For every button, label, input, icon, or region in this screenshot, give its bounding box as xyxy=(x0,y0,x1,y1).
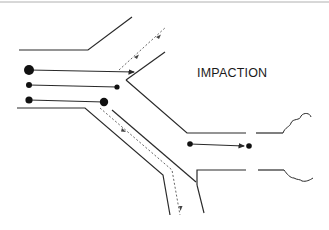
lower-branch-inner-wall xyxy=(197,185,204,213)
central-channel-lower-wall xyxy=(197,170,246,185)
upper-branch-outer-wall xyxy=(19,17,132,50)
medium-particle-path xyxy=(29,85,117,87)
airflow-streamlines xyxy=(100,27,180,215)
lower-particle-start xyxy=(25,96,32,103)
lower-streamline-arrow-2 xyxy=(179,206,183,211)
central-particle-start xyxy=(187,141,193,147)
lower-particle-deposit xyxy=(100,98,108,106)
lower-streamline xyxy=(100,108,180,215)
diagram-title: IMPACTION xyxy=(197,66,267,80)
medium-particle-deposit xyxy=(114,84,119,89)
large-particle-path xyxy=(29,70,134,72)
diagram-canvas xyxy=(0,0,329,230)
lower-branch-outer-wall xyxy=(17,108,170,215)
large-particle-start xyxy=(24,65,34,75)
alveolar-ends xyxy=(283,113,313,181)
airway-walls xyxy=(17,17,284,215)
medium-particle-start xyxy=(26,82,32,88)
upper-streamline-arrow-2 xyxy=(156,35,161,40)
impaction-diagram: IMPACTION xyxy=(0,0,329,230)
lower-alveolus xyxy=(284,170,313,181)
medium-particle-continued-path xyxy=(190,144,244,146)
central-particle-end xyxy=(246,143,252,149)
lower-particle-path xyxy=(29,100,104,102)
central-channel-lower-wall-diagonal xyxy=(112,110,196,182)
central-channel-upper-wall xyxy=(126,80,246,133)
upper-branch-inner-wall xyxy=(126,52,165,80)
upper-alveolus xyxy=(283,113,311,133)
upper-streamline xyxy=(119,27,166,70)
